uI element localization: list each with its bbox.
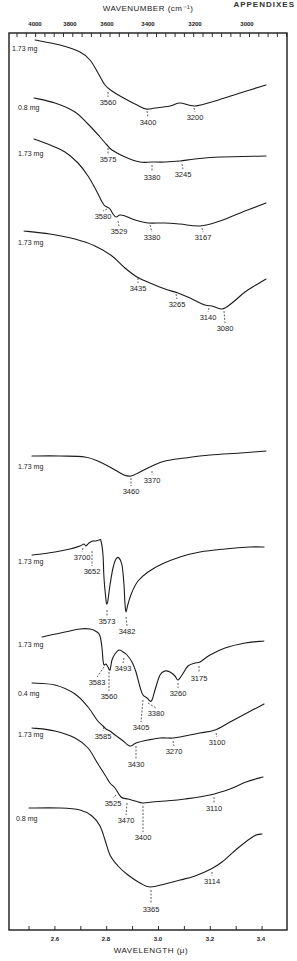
spectrum-curve [42, 629, 264, 702]
spectrum-trace-5: 1.73 mg34603370 [18, 451, 266, 496]
peak-wavenumber-label: 3110 [206, 804, 222, 813]
peak-wavenumber-label: 3580 [95, 212, 112, 221]
top-axis-title: WAVENUMBER (cm⁻¹) [103, 4, 194, 13]
peak-wavenumber-label: 3370 [144, 476, 161, 485]
peak-wavenumber-label: 3380 [144, 173, 161, 182]
peak-marker [202, 228, 203, 232]
peak-wavenumber-label: 3482 [119, 627, 136, 636]
top-tick-label: 3400 [141, 21, 155, 27]
peak-marker [224, 311, 225, 323]
peak-wavenumber-label: 3260 [170, 689, 187, 698]
peak-marker [182, 164, 183, 169]
top-tick-label: 3800 [63, 21, 77, 27]
top-tick-label: 3200 [188, 21, 202, 27]
peak-marker [194, 108, 195, 112]
bottom-tick-label: 3.2 [206, 936, 215, 942]
spectrum-trace-9: 1.73 mg3525347034003110 [18, 728, 263, 842]
top-axis-tick-labels: 400038003600340032003000 [28, 21, 254, 27]
peak-wavenumber-label: 3493 [115, 664, 132, 673]
sample-mass-label: 1.73 mg [18, 150, 43, 158]
peak-wavenumber-label: 3114 [204, 877, 220, 886]
peak-wavenumber-label: 3573 [99, 617, 116, 626]
spectrum-trace-3: 1.73 mg3580352933803167 [18, 139, 266, 242]
peak-marker [173, 741, 174, 746]
peak-wavenumber-label: 3175 [191, 674, 208, 683]
peak-wavenumber-label: 3560 [101, 692, 118, 701]
bottom-tick-label: 2.6 [51, 936, 60, 942]
peak-wavenumber-label: 3652 [84, 567, 101, 576]
spectrum-trace-1: 1.73 mg356034003200 [12, 40, 266, 127]
spectrum-trace-2: 0.8 mg357533803245 [18, 98, 266, 182]
peak-wavenumber-label: 3585 [95, 732, 112, 741]
peak-wavenumber-label: 3529 [111, 227, 128, 236]
peak-marker [118, 221, 119, 226]
top-tick-label: 3600 [100, 21, 114, 27]
peak-wavenumber-label: 3525 [105, 799, 122, 808]
peak-marker [97, 667, 104, 677]
peak-wavenumber-label: 3140 [200, 313, 217, 322]
peak-wavenumber-label: 3460 [123, 487, 140, 496]
peak-marker [176, 294, 177, 299]
spectrum-curve [32, 728, 263, 803]
peak-wavenumber-label: 3100 [209, 738, 226, 747]
peak-marker [123, 658, 124, 663]
peak-wavenumber-label: 3400 [140, 118, 157, 127]
spectrum-trace-6: 1.73 mg3700365235733482 [18, 539, 264, 636]
peak-marker [141, 700, 143, 722]
peak-wavenumber-label: 3435 [130, 284, 147, 293]
peak-wavenumber-label: 3380 [148, 709, 165, 718]
spectrum-curve [32, 451, 266, 476]
peak-marker [148, 703, 156, 708]
peak-marker [147, 111, 148, 117]
sample-mass-label: 0.8 mg [18, 104, 40, 112]
bottom-tick-label: 3.4 [257, 936, 266, 942]
spectrum-curve [34, 98, 266, 162]
spectrum-curve [24, 231, 266, 309]
peak-marker [103, 727, 104, 731]
top-tick-label: 3000 [240, 21, 254, 27]
sample-mass-label: 1.73 mg [18, 463, 43, 471]
peak-marker [82, 548, 83, 552]
spectrum-trace-10: 0.8 mg33653114 [16, 808, 262, 914]
sample-mass-label: 1.73 mg [12, 45, 37, 53]
peak-wavenumber-label: 3430 [128, 760, 145, 769]
peak-wavenumber-label: 3470 [118, 816, 135, 825]
peak-marker [208, 308, 209, 312]
sample-mass-label: 1.73 mg [18, 558, 43, 566]
top-tick-label: 4000 [28, 21, 42, 27]
peak-wavenumber-label: 3200 [187, 113, 204, 122]
peak-wavenumber-label: 3583 [89, 678, 106, 687]
top-axis: WAVENUMBER (cm⁻¹) 4000380036003400320030… [17, 4, 287, 37]
spectrum-curve [35, 40, 266, 109]
peak-marker [113, 795, 116, 798]
bottom-tick-label: 2.8 [102, 936, 111, 942]
bottom-axis-tick-labels: 2.62.83.03.23.4 [51, 936, 266, 942]
sample-mass-label: 1.73 mg [18, 239, 43, 247]
spectrum-curve [34, 139, 266, 226]
peak-wavenumber-label: 3700 [74, 553, 91, 562]
peak-wavenumber-label: 3560 [100, 98, 117, 107]
peak-marker [126, 803, 127, 815]
ir-spectra-chart: WAVENUMBER (cm⁻¹) 4000380036003400320030… [0, 0, 297, 961]
peak-wavenumber-label: 3080 [217, 324, 234, 333]
spectrum-curve [32, 539, 264, 612]
peak-wavenumber-label: 3405 [133, 723, 150, 732]
spectra-series: 1.73 mg3560340032000.8 mg3575338032451.7… [12, 40, 266, 914]
spectrum-trace-4: 1.73 mg3435326531403080 [18, 231, 266, 333]
peak-wavenumber-label: 3245 [175, 170, 192, 179]
spectrum-curve [29, 808, 262, 887]
peak-marker [126, 617, 127, 626]
sample-mass-label: 0.8 mg [16, 815, 38, 823]
peak-marker [150, 225, 152, 232]
peak-wavenumber-label: 3265 [169, 300, 186, 309]
sample-mass-label: 0.4 mg [18, 690, 40, 698]
peak-wavenumber-label: 3167 [195, 233, 212, 242]
sample-mass-label: 1.73 mg [18, 731, 43, 739]
peak-wavenumber-label: 3400 [135, 833, 152, 842]
peak-marker [103, 209, 107, 211]
peak-marker [216, 733, 217, 737]
spectrum-trace-7: 1.73 mg3583356034933405338032603175 [18, 629, 264, 732]
bottom-tick-label: 3.0 [154, 936, 163, 942]
bottom-axis-title: WAVELENGTH (μ) [114, 946, 188, 955]
peak-wavenumber-label: 3380 [144, 233, 161, 242]
